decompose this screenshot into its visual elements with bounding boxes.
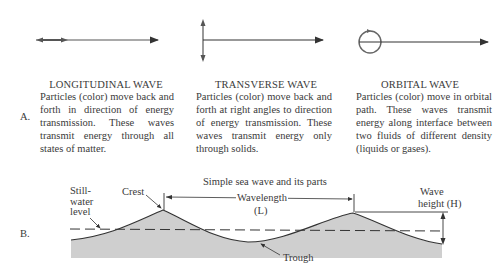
orbital-wave-description: Particles (color) move in orbital path. … (356, 90, 492, 155)
section-b-label: B. (20, 228, 30, 239)
wave-height-label-line2: height (H) (418, 198, 461, 210)
longitudinal-wave-description: Particles (color) move back and forth in… (40, 90, 174, 155)
transverse-wave-description: Particles (color) move back and forth at… (196, 90, 332, 155)
still-water-level-label: Still- water level (70, 186, 93, 218)
longitudinal-wave-title: LONGITUDINAL WAVE (40, 79, 172, 90)
wavelength-symbol: (L) (254, 205, 267, 217)
transverse-wave-title: TRANSVERSE WAVE (206, 79, 326, 90)
section-a-label: A. (20, 111, 30, 122)
wavelength-label: Wavelength (236, 192, 288, 204)
sea-wave-title: Simple sea wave and its parts (203, 176, 327, 188)
longitudinal-wave-icon (36, 38, 158, 43)
wave-height-label-line1: Wave (420, 186, 444, 198)
orbital-wave-icon (359, 29, 488, 53)
orbital-wave-title: ORBITAL WAVE (370, 79, 470, 90)
crest-label: Crest (122, 186, 144, 198)
transverse-wave-icon (201, 19, 324, 62)
trough-label: Trough (283, 252, 314, 264)
